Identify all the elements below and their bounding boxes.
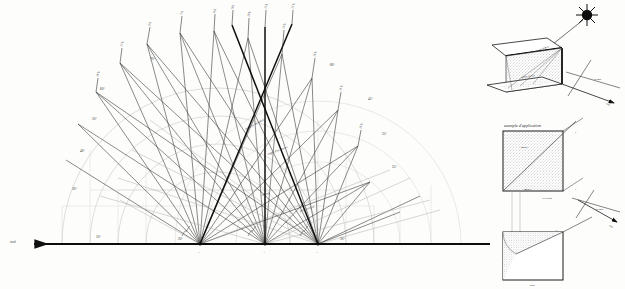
degree-label: 30° [340, 237, 345, 241]
vertex-label: A [198, 251, 200, 254]
degree-label: 30° [72, 187, 77, 191]
degree-label: 70° [150, 57, 155, 61]
azimuth-label: azimut [596, 208, 604, 211]
degree-label: 35° [382, 132, 387, 136]
degree-label: 80° [330, 63, 335, 67]
inner-label: ombre [524, 188, 532, 191]
degree-label: 10° [96, 235, 101, 239]
vertex-label: A [316, 251, 318, 254]
vertex-label: A [263, 251, 265, 254]
north-arrow-label: nord [10, 240, 16, 244]
elevation-caption: élévation [542, 197, 553, 200]
degree-label: 60° [100, 87, 105, 91]
azimuth-label: azimut [594, 78, 602, 81]
inner-label: ombre [521, 146, 529, 149]
technical-drawing-plate: 6 h 7 h 8 h 9 h 10 h 11 h 12 h 13 h 14 h… [0, 0, 625, 289]
degree-label: 20° [178, 237, 183, 241]
inset-caption: exemple d'application [504, 123, 541, 128]
degree-label: 45° [368, 97, 373, 101]
plan-caption: plan [530, 284, 535, 287]
degree-label: 40° [80, 149, 85, 153]
plate-canvas: 6 h 7 h 8 h 9 h 10 h 11 h 12 h 13 h 14 h… [0, 0, 625, 289]
degree-label: 50° [92, 117, 97, 121]
degree-label: 25° [392, 165, 397, 169]
